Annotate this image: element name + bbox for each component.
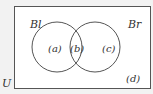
venn-diagram: Bl Br (a) (b) (c) (d) U (0, 0, 153, 94)
region-c-label: (c) (102, 43, 116, 54)
region-d-label: (d) (126, 73, 140, 84)
universe-label: U (2, 77, 12, 90)
set-bl-label: Bl (29, 18, 42, 31)
region-a-label: (a) (48, 43, 62, 54)
region-b-label: (b) (70, 43, 84, 54)
set-br-label: Br (127, 18, 142, 31)
